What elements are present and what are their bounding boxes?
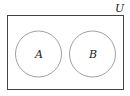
venn-diagram: U A B bbox=[0, 0, 130, 96]
universe-label: U bbox=[115, 2, 125, 15]
universe-rectangle bbox=[8, 16, 124, 90]
set-b-label: B bbox=[88, 48, 97, 61]
set-a-label: A bbox=[34, 48, 43, 61]
